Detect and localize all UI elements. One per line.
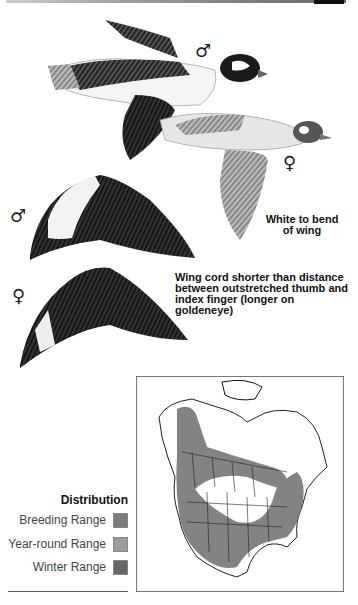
bird-illustrations — [0, 0, 358, 375]
male-wing-illustration — [30, 175, 195, 260]
breeding-swatch — [113, 513, 128, 528]
legend-label: Breeding Range — [19, 513, 106, 527]
year-round-swatch — [113, 537, 128, 552]
male-wing-note: White to bend of wing — [262, 214, 342, 236]
female-symbol-wing: ♀ — [12, 285, 25, 306]
note-line: of wing — [262, 225, 342, 236]
legend-label: Winter Range — [33, 560, 106, 574]
north-america-map — [137, 377, 343, 591]
legend-label: Year-round Range — [8, 537, 106, 551]
female-wing-illustration — [20, 268, 188, 369]
distribution-map — [136, 376, 344, 592]
female-symbol-flying: ♀ — [283, 152, 296, 173]
male-symbol-flying: ♂ — [195, 40, 211, 61]
female-wing-note: Wing cord shorter than distance between … — [175, 272, 355, 316]
legend-divider — [8, 591, 128, 592]
note-line: index finger (longer on goldeneye) — [175, 294, 355, 316]
legend-item-breeding: Breeding Range — [19, 512, 128, 528]
male-symbol-wing: ♂ — [10, 205, 26, 226]
legend-title: Distribution — [61, 493, 128, 507]
legend-item-winter: Winter Range — [33, 559, 128, 575]
winter-swatch — [113, 560, 128, 575]
legend-item-year-round: Year-round Range — [8, 536, 128, 552]
